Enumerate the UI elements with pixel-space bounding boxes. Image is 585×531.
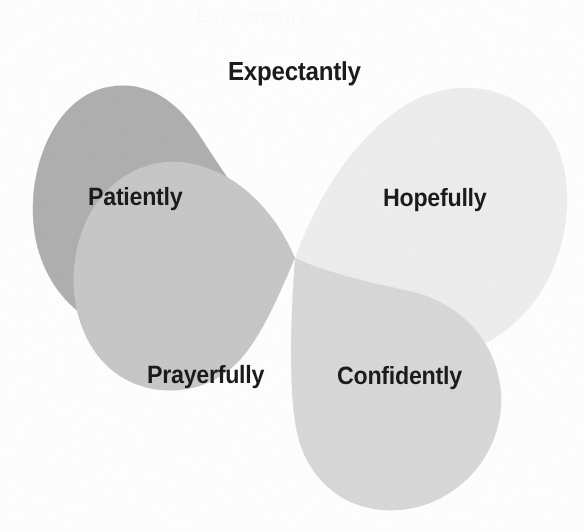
petal-label-patiently: Patiently [88,183,182,212]
petal-label-confidently: Confidently [337,362,462,391]
petal-label-prayerfully: Prayerfully [147,361,264,390]
petal-diagram: Expectantly Expectantly Patiently Hopefu [0,0,585,531]
petal-label-expectantly: Expectantly [228,56,361,87]
petal-label-hopefully: Hopefully [383,184,486,213]
